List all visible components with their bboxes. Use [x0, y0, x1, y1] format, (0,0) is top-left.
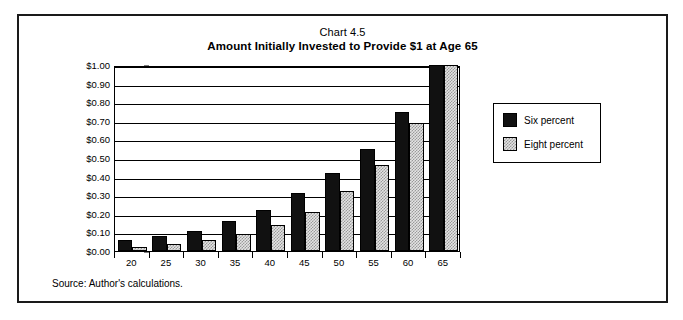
bars-layer [115, 67, 459, 251]
y-tick-label: $0.30 [54, 191, 110, 201]
chart-main-title: Amount Initially Invested to Provide $1 … [19, 39, 666, 54]
bar-group [152, 67, 181, 251]
bar-eight-percent-age-45 [305, 212, 320, 251]
y-tick-label: $0.20 [54, 210, 110, 220]
legend-entry: Six percent [503, 113, 574, 127]
y-tick-label: $0.50 [54, 154, 110, 164]
chart-number-title: Chart 4.5 [19, 25, 666, 39]
x-tick-label: 40 [264, 257, 275, 269]
bar-group [325, 67, 354, 251]
bar-eight-percent-age-60 [409, 123, 424, 251]
bar-six-percent-age-65 [429, 65, 444, 251]
legend-swatch-six [503, 113, 517, 127]
plot-area [114, 66, 460, 252]
bar-group [395, 67, 424, 251]
bar-group [118, 67, 147, 251]
bar-six-percent-age-40 [256, 210, 271, 251]
bar-six-percent-age-20 [118, 240, 133, 251]
x-tick-label: 45 [299, 257, 310, 269]
bar-group [256, 67, 285, 251]
bar-six-percent-age-60 [395, 112, 410, 252]
x-tick-label: 65 [437, 257, 448, 269]
y-tick-label: $0.40 [54, 173, 110, 183]
x-tick-label: 50 [334, 257, 345, 269]
y-tick-label: $0.70 [54, 117, 110, 127]
y-tick-label: $1.00 [54, 61, 110, 71]
chart-legend: Six percentEight percent [493, 103, 601, 163]
y-tick-label: $0.60 [54, 135, 110, 145]
bar-group [360, 67, 389, 251]
bar-eight-percent-age-40 [271, 225, 286, 251]
chart-figure-frame: Chart 4.5 Amount Initially Invested to P… [17, 14, 668, 303]
bar-six-percent-age-50 [325, 173, 340, 251]
bar-group [291, 67, 320, 251]
bar-six-percent-age-45 [291, 193, 306, 251]
bar-eight-percent-age-50 [340, 191, 355, 251]
y-tick-label: $0.90 [54, 80, 110, 90]
bar-group [187, 67, 216, 251]
x-tick-label: 60 [403, 257, 414, 269]
bar-six-percent-age-25 [152, 236, 167, 251]
bar-eight-percent-age-35 [236, 234, 251, 251]
bar-eight-percent-age-55 [375, 165, 390, 251]
legend-swatch-eight [503, 137, 517, 151]
x-tick-label: 35 [230, 257, 241, 269]
chart-title-block: Chart 4.5 Amount Initially Invested to P… [19, 25, 666, 54]
bar-eight-percent-age-65 [444, 65, 459, 251]
y-tick-label: $0.00 [54, 247, 110, 257]
bar-six-percent-age-55 [360, 149, 375, 251]
bar-eight-percent-age-20 [132, 247, 147, 251]
bar-group [222, 67, 251, 251]
bar-group [429, 67, 458, 251]
bar-six-percent-age-35 [222, 221, 237, 251]
y-axis: $1.00$0.90$0.80$0.70$0.60$0.50$0.40$0.30… [54, 66, 110, 252]
x-tick-mark [460, 252, 461, 258]
legend-label: Six percent [524, 115, 574, 126]
x-axis: 20253035404550556065 [114, 257, 460, 273]
x-tick-label: 55 [368, 257, 379, 269]
y-tick-label: $0.10 [54, 228, 110, 238]
source-note: Source: Author's calculations. [52, 278, 183, 289]
x-tick-label: 20 [126, 257, 137, 269]
x-tick-label: 25 [161, 257, 172, 269]
bar-six-percent-age-30 [187, 231, 202, 251]
y-tick-label: $0.80 [54, 98, 110, 108]
x-tick-label: 30 [195, 257, 206, 269]
legend-entry: Eight percent [503, 137, 583, 151]
bar-eight-percent-age-30 [202, 240, 217, 251]
bar-eight-percent-age-25 [167, 244, 182, 251]
legend-label: Eight percent [524, 139, 583, 150]
